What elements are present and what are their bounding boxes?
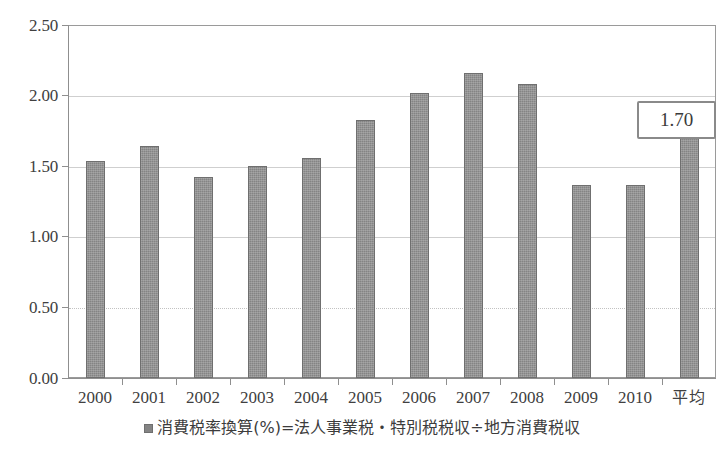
plot-area: [68, 25, 716, 378]
x-tick-label-2006: 2006: [392, 388, 446, 408]
gridline-1.50: [69, 167, 715, 168]
x-tick-label-2008: 2008: [500, 388, 554, 408]
x-tick-label-2000: 2000: [68, 388, 122, 408]
x-tick-2004: [284, 378, 285, 385]
x-tick-平均: [662, 378, 663, 385]
bar-2010: [626, 185, 645, 378]
x-tick-2009: [554, 378, 555, 385]
bar-2001: [140, 146, 159, 378]
bar-2008: [518, 84, 537, 378]
bar-2002: [194, 177, 213, 378]
legend-label: 消費税率換算(%)=法人事業税・特別税税収÷地方消費税収: [157, 418, 580, 438]
y-tick-1.00: [62, 236, 69, 237]
x-tick-2002: [176, 378, 177, 385]
y-tick-label-0: 0.00: [2, 370, 58, 387]
x-tick-label-2003: 2003: [230, 388, 284, 408]
x-tick-2003: [230, 378, 231, 385]
x-tick-2007: [446, 378, 447, 385]
y-tick-label-3: 1.50: [2, 158, 58, 175]
x-tick-2001: [122, 378, 123, 385]
bar-2003: [248, 166, 267, 378]
bar-2009: [572, 185, 591, 378]
y-tick-2.00: [62, 95, 69, 96]
x-tick-label-2007: 2007: [446, 388, 500, 408]
y-tick-label-4: 2.00: [2, 87, 58, 104]
x-tick-2006: [392, 378, 393, 385]
bar-2005: [356, 120, 375, 378]
y-tick-label-1: 0.50: [2, 299, 58, 316]
gridline-0.50: [69, 308, 715, 309]
y-axis: [68, 25, 69, 378]
x-tick-label-平均: 平均: [662, 388, 716, 408]
bar-2006: [410, 93, 429, 378]
y-tick-0.00: [62, 378, 69, 379]
y-tick-label-2: 1.00: [2, 228, 58, 245]
bar-chart: 2.50 2.00 1.50 1.00 0.50 0.00 2000200120…: [0, 0, 724, 450]
y-tick-label-5: 2.50: [2, 17, 58, 34]
x-tick-label-2002: 2002: [176, 388, 230, 408]
y-tick-0.50: [62, 307, 69, 308]
y-tick-1.50: [62, 166, 69, 167]
gridline-2.00: [69, 96, 715, 97]
bar-2007: [464, 73, 483, 378]
x-tick-label-2010: 2010: [608, 388, 662, 408]
legend-square-marker-icon: [144, 424, 153, 433]
bar-2004: [302, 158, 321, 378]
gridline-1.00: [69, 237, 715, 238]
x-tick-2008: [500, 378, 501, 385]
x-tick-label-2004: 2004: [284, 388, 338, 408]
x-tick-label-2009: 2009: [554, 388, 608, 408]
x-tick-label-2005: 2005: [338, 388, 392, 408]
bar-平均: [680, 138, 699, 378]
x-tick-2005: [338, 378, 339, 385]
average-value-callout: 1.70: [637, 101, 716, 139]
legend: 消費税率換算(%)=法人事業税・特別税税収÷地方消費税収: [0, 418, 724, 438]
bar-2000: [86, 161, 105, 378]
x-tick-2010: [608, 378, 609, 385]
y-tick-2.50: [62, 25, 69, 26]
x-tick-label-2001: 2001: [122, 388, 176, 408]
